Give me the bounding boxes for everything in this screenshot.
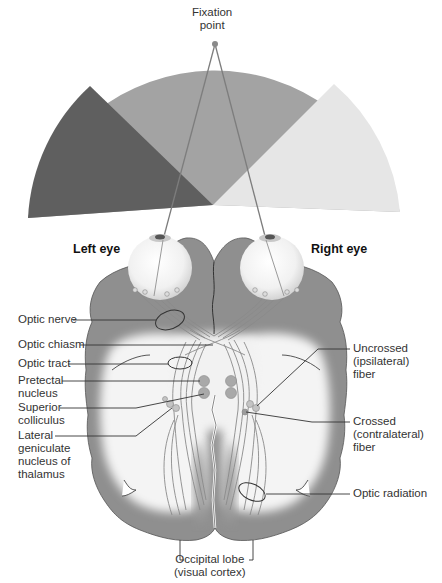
superior-colliculus-label: Superior colliculus bbox=[18, 401, 65, 427]
label-line: Optic nerve bbox=[18, 313, 77, 326]
label-line: Uncrossed bbox=[353, 342, 409, 355]
crossed-fiber-label: Crossed (contralateral) fiber bbox=[353, 415, 424, 454]
uncrossed-fiber-label: Uncrossed (ipsilateral) fiber bbox=[353, 342, 409, 381]
label-line: Optic chiasm bbox=[18, 338, 84, 351]
label-line: Optic tract bbox=[18, 357, 70, 370]
label-line: (contralateral) bbox=[353, 428, 424, 441]
label-line: (visual cortex) bbox=[174, 566, 246, 579]
lgn-right bbox=[247, 401, 254, 408]
fixation-label-line-1: Fixation bbox=[192, 6, 232, 19]
label-line: Pretectal bbox=[18, 374, 63, 387]
label-line: (ipsilateral) bbox=[353, 355, 409, 368]
optic-nerve-label: Optic nerve bbox=[18, 313, 77, 326]
superior-colliculus-right bbox=[226, 388, 237, 399]
lgn-right-b bbox=[253, 405, 260, 412]
label-line: nucleus bbox=[18, 387, 63, 400]
label-line: fiber bbox=[353, 368, 409, 381]
optic-chiasm-label: Optic chiasm bbox=[18, 338, 84, 351]
optic-tract-label: Optic tract bbox=[18, 357, 70, 370]
fixation-point-marker bbox=[212, 41, 218, 47]
label-line: nucleus of bbox=[18, 455, 70, 468]
brain-section bbox=[85, 238, 347, 541]
optic-radiation-label: Optic radiation bbox=[353, 487, 427, 500]
label-line: fiber bbox=[353, 441, 424, 454]
fixation-point-label: Fixation point bbox=[192, 6, 232, 32]
label-line: Lateral bbox=[18, 429, 70, 442]
lgn-left-b bbox=[173, 405, 180, 412]
visual-pathway-diagram: Fixation point Left eye Right eye Optic … bbox=[0, 0, 442, 583]
label-line: thalamus bbox=[18, 468, 70, 481]
pretectal-nucleus-left bbox=[199, 376, 210, 387]
label-line: Crossed bbox=[353, 415, 424, 428]
label-line: Superior bbox=[18, 401, 65, 414]
visual-field-fan bbox=[28, 71, 400, 240]
pretectal-nucleus-right bbox=[226, 376, 237, 387]
fixation-label-line-2: point bbox=[192, 19, 232, 32]
label-line: Optic radiation bbox=[353, 487, 427, 500]
label-line: Occipital lobe bbox=[174, 553, 246, 566]
superior-colliculus-left bbox=[199, 388, 210, 399]
label-line: colliculus bbox=[18, 414, 65, 427]
label-line: geniculate bbox=[18, 442, 70, 455]
pretectal-nucleus-label: Pretectal nucleus bbox=[18, 374, 63, 400]
left-eye-label: Left eye bbox=[73, 243, 120, 256]
right-eye-label: Right eye bbox=[311, 243, 367, 256]
occipital-lobe-label: Occipital lobe (visual cortex) bbox=[174, 553, 246, 579]
lateral-geniculate-label: Lateral geniculate nucleus of thalamus bbox=[18, 429, 70, 481]
